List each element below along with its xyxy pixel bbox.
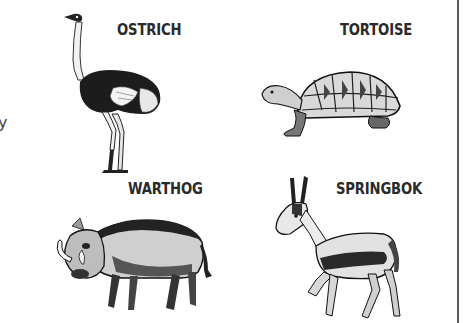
label-warthog: WARTHOG bbox=[128, 182, 203, 197]
ostrich-icon bbox=[58, 10, 170, 175]
animal-card: y OSTRICH TORTOISE bbox=[0, 0, 472, 323]
warthog-icon bbox=[52, 216, 214, 314]
tortoise-icon bbox=[258, 66, 406, 141]
label-tortoise: TORTOISE bbox=[340, 23, 412, 38]
page-border-line bbox=[457, 0, 459, 323]
springbok-icon bbox=[272, 174, 408, 320]
clipped-edge-mark: y bbox=[0, 113, 7, 132]
